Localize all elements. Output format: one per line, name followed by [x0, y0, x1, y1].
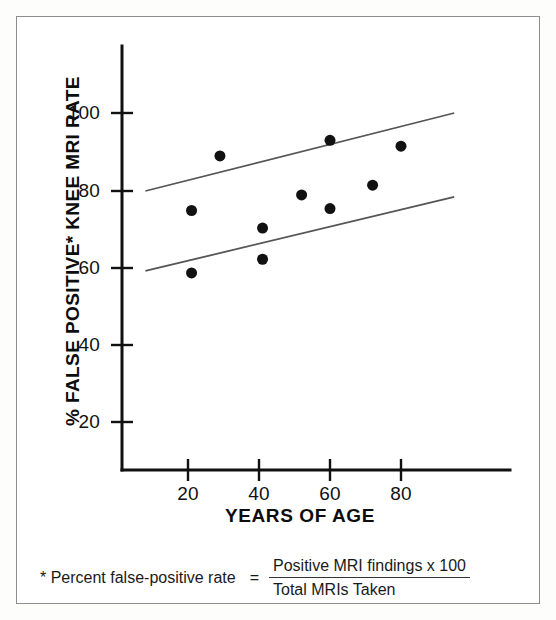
data-point	[325, 135, 336, 146]
footnote-fraction: Positive MRI findings x 100 Total MRIs T…	[269, 556, 470, 600]
data-point	[257, 254, 268, 265]
data-point	[296, 189, 307, 200]
data-point	[325, 203, 336, 214]
footnote-prefix: * Percent false-positive rate	[40, 569, 236, 587]
figure-root: 100 80 60 40 20 20 40 60 80 % FALSE POSI…	[0, 0, 556, 620]
y-axis-title: % FALSE POSITIVE* KNEE MRI RATE	[62, 86, 84, 426]
data-point	[214, 150, 225, 161]
data-point	[186, 205, 197, 216]
data-point	[367, 180, 378, 191]
footnote: * Percent false-positive rate = Positive…	[40, 556, 518, 600]
footnote-numerator: Positive MRI findings x 100	[269, 556, 470, 578]
x-axis-title: YEARS OF AGE	[120, 505, 480, 527]
data-point	[186, 267, 197, 278]
data-point	[257, 223, 268, 234]
footnote-equals: =	[250, 569, 259, 587]
plot-area: 100 80 60 40 20 20 40 60 80 % FALSE POSI…	[0, 0, 556, 620]
x-tick-label-60: 60	[308, 483, 352, 505]
x-tick-label-20: 20	[166, 483, 210, 505]
data-point	[396, 141, 407, 152]
x-tick-label-40: 40	[237, 483, 281, 505]
x-tick-label-80: 80	[379, 483, 423, 505]
footnote-denominator: Total MRIs Taken	[269, 578, 399, 600]
band-line-0	[145, 113, 454, 191]
scatter-points	[186, 135, 406, 279]
